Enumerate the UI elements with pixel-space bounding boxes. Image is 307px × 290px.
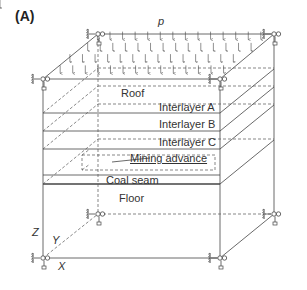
support-icon (31, 253, 50, 269)
support-icon (86, 209, 105, 225)
load-label: p (158, 16, 164, 27)
axis-y-label: Y (52, 235, 59, 246)
support-icon (262, 209, 281, 225)
support-icon (262, 29, 281, 45)
axis-z-label: Z (32, 227, 39, 238)
distributed-load (60, 32, 261, 74)
layer-interlayer-c: Interlayer C (159, 137, 216, 148)
support-icon (86, 29, 105, 45)
layer-interlayer-a: Interlayer A (159, 102, 215, 113)
axis-x-label: X (58, 261, 65, 272)
layer-interlayer-b: Interlayer B (159, 119, 215, 130)
model-diagram (0, 0, 307, 290)
support-icon (208, 253, 227, 269)
layer-roof: Roof (121, 88, 144, 99)
layer-coal-seam: Coal seam (106, 175, 159, 186)
support-icon (31, 74, 50, 90)
mining-advance-label: Mining advance (130, 153, 207, 164)
layer-floor: Floor (119, 193, 144, 204)
support-icon (208, 74, 227, 90)
